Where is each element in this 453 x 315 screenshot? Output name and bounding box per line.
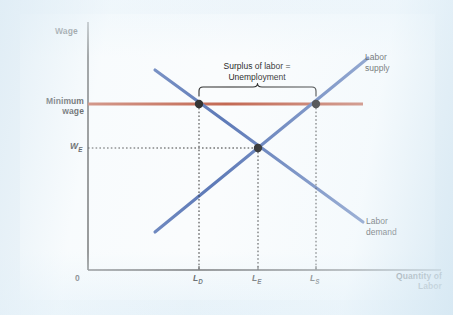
surplus-brace-icon bbox=[199, 84, 316, 97]
le-subscript: E bbox=[257, 278, 261, 285]
figure-canvas: Wage Minimum wage WE 0 LD LE LS Quantity… bbox=[0, 0, 453, 315]
equilibrium-wage-axis-label: WE bbox=[70, 141, 82, 155]
point-ld-minwage bbox=[195, 100, 203, 108]
ld-subscript: D bbox=[198, 278, 203, 285]
point-ls-minwage bbox=[312, 100, 320, 108]
labor-supply-curve-label: Labor supply bbox=[365, 52, 390, 74]
point-equilibrium bbox=[254, 144, 262, 152]
equilibrium-wage-subscript: E bbox=[78, 146, 82, 153]
ls-subscript: S bbox=[315, 278, 319, 285]
x-tick-label-ld: LD bbox=[193, 273, 203, 287]
labor-demand-curve-label: Labor demand bbox=[366, 216, 397, 238]
y-axis-label: Wage bbox=[55, 26, 78, 36]
x-tick-label-ls: LS bbox=[310, 273, 320, 287]
equilibrium-wage-symbol: W bbox=[70, 141, 78, 151]
x-tick-label-le: LE bbox=[252, 273, 262, 287]
diagram-svg bbox=[0, 0, 453, 315]
origin-label: 0 bbox=[75, 273, 80, 283]
x-axis-label: Quantity of Labor bbox=[380, 271, 442, 291]
minimum-wage-axis-label: Minimum wage bbox=[34, 96, 84, 116]
surplus-annotation-label: Surplus of labor = Unemployment bbox=[198, 61, 316, 83]
labor-supply-curve bbox=[155, 58, 368, 232]
